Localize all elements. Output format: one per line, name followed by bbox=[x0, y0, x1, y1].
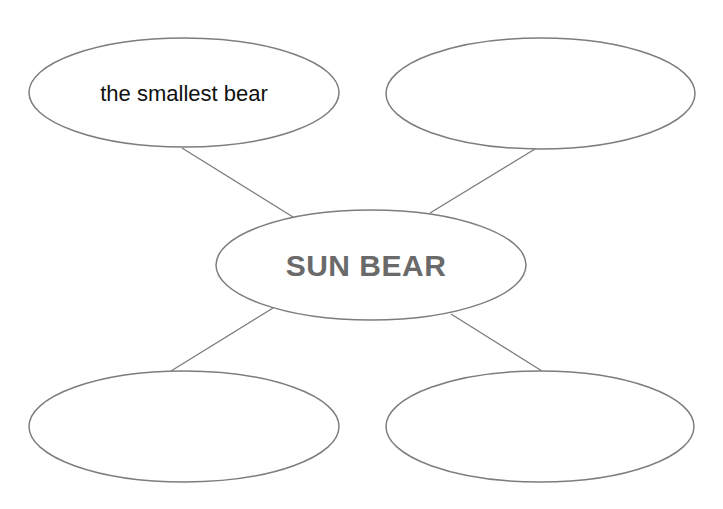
bubble-center: SUN BEAR bbox=[216, 210, 526, 320]
connector-bottom-right bbox=[451, 314, 542, 371]
bubble-bottom-right[interactable] bbox=[386, 371, 694, 482]
bubble-bottom-left[interactable] bbox=[29, 371, 339, 482]
connector-bottom-left bbox=[171, 308, 273, 371]
concept-web-diagram: the smallest bear SUN BEAR bbox=[0, 0, 723, 509]
bubble-top-left[interactable]: the smallest bear bbox=[29, 38, 339, 147]
bubble-bottom-right-shape[interactable] bbox=[386, 371, 694, 482]
bubble-bottom-left-shape[interactable] bbox=[29, 371, 339, 482]
center-topic-label: SUN BEAR bbox=[286, 249, 447, 282]
connector-top-left bbox=[182, 148, 293, 217]
connector-top-right bbox=[430, 149, 535, 213]
bubble-top-right-shape[interactable] bbox=[386, 38, 695, 149]
bubble-top-left-text: the smallest bear bbox=[100, 81, 268, 106]
bubble-top-right[interactable] bbox=[386, 38, 695, 149]
